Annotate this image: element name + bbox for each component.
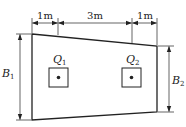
dimension-label-right: 1m: [137, 10, 153, 21]
top-dimension-chain: [32, 18, 157, 45]
dimension-label-left: 1m: [37, 10, 53, 21]
column-q1: [49, 68, 68, 87]
column-center-dot-icon: [57, 76, 61, 80]
width-label-b2: B2: [171, 74, 185, 88]
column-q2-label: Q2: [126, 53, 140, 67]
footing-diagram: 1m 3m 1m Q1 Q2 B1 B2: [0, 0, 186, 127]
dimension-label-middle: 3m: [87, 10, 103, 21]
column-q1-label: Q1: [53, 53, 67, 67]
column-center-dot-icon: [130, 76, 134, 80]
width-label-b1: B1: [1, 67, 15, 81]
column-q2: [122, 68, 141, 87]
width-dimension-b1: [16, 34, 31, 120]
footing-outline: [32, 34, 157, 120]
